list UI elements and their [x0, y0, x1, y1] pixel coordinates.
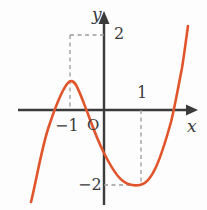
plot-canvas [0, 0, 207, 210]
y-tick-label-2: 2 [114, 26, 124, 42]
x-tick-label-1: 1 [137, 85, 147, 101]
origin-label: O [87, 118, 99, 133]
math-figure-cubic-graph: y x O 2 −2 −1 1 [0, 0, 207, 210]
x-axis [18, 105, 198, 116]
cubic-curve [31, 26, 188, 202]
x-tick-label-negative-1: −1 [55, 118, 79, 134]
y-axis-label: y [92, 6, 102, 23]
x-axis-arrowhead [186, 105, 198, 116]
y-tick-label-negative-2: −2 [78, 177, 102, 193]
x-axis-label: x [187, 118, 197, 135]
